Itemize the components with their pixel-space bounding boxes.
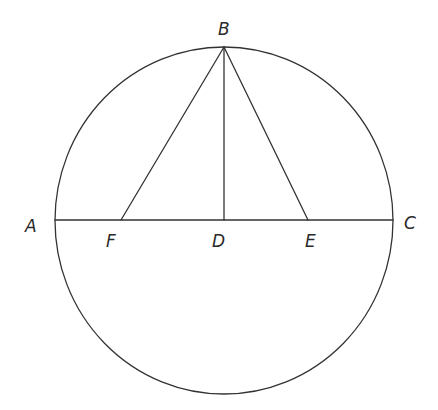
diagram-canvas: A B C D E F: [0, 0, 438, 410]
label-d: D: [212, 231, 225, 251]
segment-be: [224, 47, 308, 220]
label-c: C: [404, 213, 416, 233]
label-a: A: [24, 216, 37, 236]
label-f: F: [106, 231, 116, 251]
geometry-figure: A B C D E F: [0, 0, 438, 410]
segment-bf: [121, 47, 224, 220]
label-e: E: [305, 231, 316, 251]
label-b: B: [218, 19, 230, 39]
